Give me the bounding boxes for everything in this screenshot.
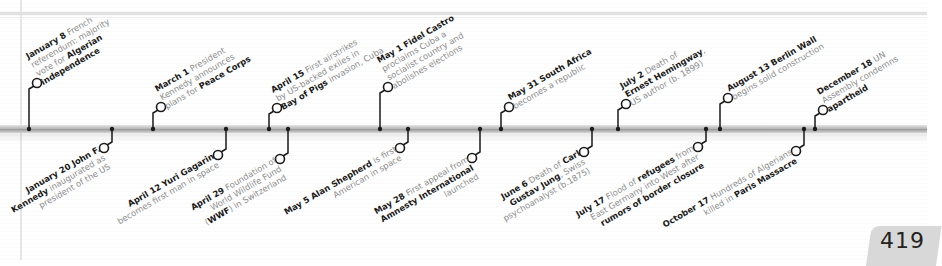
event-connector-june-6 bbox=[580, 127, 595, 157]
event-connector-april-12 bbox=[214, 127, 229, 160]
event-connector-april-15 bbox=[267, 104, 282, 132]
event-connector-october-17 bbox=[792, 127, 807, 156]
event-connector-august-13 bbox=[718, 94, 733, 132]
event-connector-may-5 bbox=[396, 127, 411, 153]
event-connector-july-2 bbox=[616, 100, 631, 132]
event-tick-dot bbox=[813, 127, 817, 131]
event-tick-dot bbox=[616, 127, 620, 131]
event-tick-dot bbox=[110, 127, 114, 131]
page-number: 419 bbox=[880, 228, 925, 253]
event-tick-dot bbox=[151, 127, 155, 131]
event-connector-january-20 bbox=[100, 127, 115, 153]
event-tick-dot bbox=[406, 127, 410, 131]
event-connector-december-18 bbox=[813, 106, 828, 132]
event-connector-may-1 bbox=[378, 83, 393, 132]
event-tick-dot bbox=[224, 127, 228, 131]
event-connector-april-29 bbox=[276, 127, 291, 164]
event-tick-dot bbox=[499, 127, 503, 131]
event-tick-dot bbox=[802, 127, 806, 131]
event-connector-may-31 bbox=[499, 103, 514, 132]
event-tick-dot bbox=[478, 127, 482, 131]
event-tick-dot bbox=[378, 127, 382, 131]
event-connector-july-17 bbox=[694, 127, 709, 152]
event-tick-dot bbox=[590, 127, 594, 131]
event-connector-may-28 bbox=[468, 127, 483, 163]
event-connector-january-8 bbox=[27, 79, 42, 132]
event-tick-dot bbox=[286, 127, 290, 131]
event-tick-dot bbox=[718, 127, 722, 131]
event-tick-dot bbox=[27, 127, 31, 131]
event-tick-dot bbox=[267, 127, 271, 131]
event-tick-dot bbox=[704, 127, 708, 131]
event-connector-march-1 bbox=[151, 103, 166, 132]
